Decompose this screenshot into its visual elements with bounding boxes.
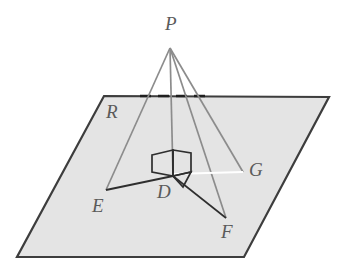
geometry-canvas	[0, 0, 343, 270]
label-plane-r: R	[106, 102, 118, 121]
label-point-d: D	[157, 182, 171, 201]
label-point-f: F	[221, 222, 233, 241]
label-point-e: E	[92, 196, 104, 215]
label-point-p: P	[165, 14, 177, 33]
geometry-figure: P R E D F G	[0, 0, 343, 270]
label-point-g: G	[249, 160, 263, 179]
